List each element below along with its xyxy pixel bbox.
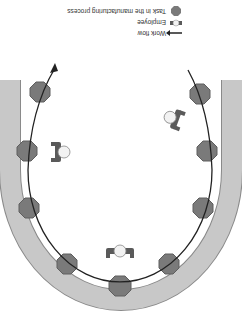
employee-right [161,106,186,131]
employee-bottom [106,245,134,258]
task-icon [109,276,131,296]
task-icon [17,141,37,161]
process-track-fill [10,80,232,300]
octagon-task-icon [171,6,181,16]
u-shaped-cell-diagram: Task in the manufacturing process Employ… [0,0,242,313]
task-icon [57,254,77,274]
task-icon [197,141,217,161]
task-icon [193,198,213,218]
workflow-arrowhead [50,63,58,73]
legend-label-task: Task in the manufacturing process [67,7,166,15]
employee-left [51,142,70,162]
employee-icon [170,20,182,26]
arrow-icon [166,30,182,36]
legend-label-workflow: Work flow [137,30,166,37]
legend: Task in the manufacturing process Employ… [67,6,182,37]
task-icon [190,84,210,104]
legend-label-employee: Employee [137,18,166,26]
